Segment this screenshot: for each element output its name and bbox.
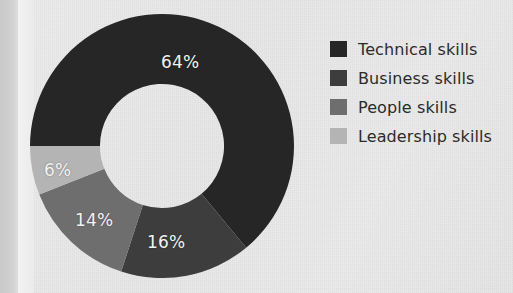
legend-label-people: People skills bbox=[358, 98, 457, 117]
legend-item-business[interactable]: Business skills bbox=[330, 67, 505, 89]
legend-swatch-icon-people bbox=[330, 99, 347, 115]
page-edge-shadow bbox=[0, 0, 18, 293]
page-canvas: 64% 16% 14% 6% Technical skills Business… bbox=[0, 0, 513, 293]
legend-item-technical[interactable]: Technical skills bbox=[330, 38, 505, 60]
slice-label-technical: 64% bbox=[161, 52, 199, 72]
slice-label-people: 14% bbox=[75, 210, 113, 230]
legend-item-people[interactable]: People skills bbox=[330, 96, 505, 118]
legend-item-leadership[interactable]: Leadership skills bbox=[330, 125, 505, 147]
legend-swatch-icon-business bbox=[330, 70, 347, 86]
chart-legend: Technical skills Business skills People … bbox=[330, 38, 505, 154]
slice-label-business: 16% bbox=[147, 232, 185, 252]
legend-label-leadership: Leadership skills bbox=[358, 127, 492, 146]
legend-swatch-icon-technical bbox=[330, 41, 347, 57]
slice-label-leadership: 6% bbox=[44, 160, 71, 180]
legend-swatch-icon-leadership bbox=[330, 128, 347, 144]
bleed-through-text bbox=[318, 158, 508, 180]
legend-label-business: Business skills bbox=[358, 69, 474, 88]
legend-label-technical: Technical skills bbox=[358, 40, 477, 59]
donut-chart: 64% 16% 14% 6% bbox=[30, 14, 294, 278]
